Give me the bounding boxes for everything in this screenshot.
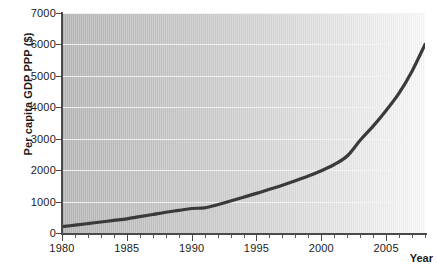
y-axis-tick <box>56 170 61 171</box>
x-axis-minor-tick <box>114 235 115 238</box>
y-axis-tick <box>56 107 61 108</box>
x-axis-minor-tick <box>218 235 219 238</box>
y-axis-tick <box>56 233 61 234</box>
y-axis-tick-label: 3000 <box>10 133 56 145</box>
x-axis-tick-label: 1995 <box>244 242 269 254</box>
x-axis-tick-label: 2005 <box>373 242 398 254</box>
x-axis-minor-tick <box>399 235 400 238</box>
y-axis-line <box>61 12 63 234</box>
x-axis-major-tick <box>62 235 63 241</box>
x-axis-tick-label: 1985 <box>114 242 139 254</box>
x-axis-minor-tick <box>140 235 141 238</box>
y-axis-tick-label: 2000 <box>10 164 56 176</box>
y-axis-tick <box>56 13 61 14</box>
x-axis-minor-tick <box>412 235 413 238</box>
plot-area <box>62 13 425 233</box>
y-axis-tick-label: 0 <box>10 227 56 239</box>
x-axis-minor-tick <box>308 235 309 238</box>
y-axis-tick-label: 6000 <box>10 38 56 50</box>
y-axis-tick-label: 1000 <box>10 196 56 208</box>
x-axis-minor-tick <box>347 235 348 238</box>
y-axis-tick <box>56 202 61 203</box>
x-axis-tick-label: 1990 <box>179 242 204 254</box>
x-axis-minor-tick <box>373 235 374 238</box>
chart-figure: Per capita GDP PPP ($) 01000200030004000… <box>0 0 437 267</box>
y-axis-tick-labels: 01000200030004000500060007000 <box>0 0 56 267</box>
x-axis-minor-tick <box>282 235 283 238</box>
x-axis-major-tick <box>256 235 257 241</box>
x-axis-minor-tick <box>295 235 296 238</box>
x-axis-minor-tick <box>75 235 76 238</box>
x-axis-minor-tick <box>425 235 426 238</box>
y-axis-tick <box>56 76 61 77</box>
x-axis-major-tick <box>192 235 193 241</box>
x-axis-minor-tick <box>205 235 206 238</box>
x-axis-title: Year <box>410 252 433 264</box>
x-axis-minor-tick <box>334 235 335 238</box>
x-axis-minor-tick <box>166 235 167 238</box>
y-axis-tick-label: 4000 <box>10 101 56 113</box>
x-axis-minor-tick <box>231 235 232 238</box>
x-axis-minor-tick <box>179 235 180 238</box>
x-axis-minor-tick <box>153 235 154 238</box>
x-axis-tick-label: 2000 <box>309 242 334 254</box>
x-axis-minor-tick <box>88 235 89 238</box>
x-axis-major-tick <box>127 235 128 241</box>
x-axis-minor-tick <box>244 235 245 238</box>
x-axis-major-tick <box>321 235 322 241</box>
x-axis-minor-tick <box>269 235 270 238</box>
line-series <box>62 13 425 233</box>
y-axis-tick-label: 5000 <box>10 70 56 82</box>
x-axis-tick-label: 1980 <box>49 242 74 254</box>
y-axis-tick <box>56 139 61 140</box>
x-axis-major-tick <box>386 235 387 241</box>
data-line <box>62 44 425 226</box>
x-axis-minor-tick <box>101 235 102 238</box>
x-axis-minor-tick <box>360 235 361 238</box>
y-axis-tick <box>56 44 61 45</box>
y-axis-tick-label: 7000 <box>10 7 56 19</box>
